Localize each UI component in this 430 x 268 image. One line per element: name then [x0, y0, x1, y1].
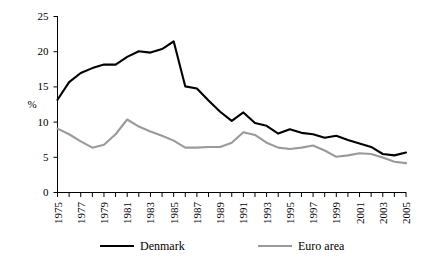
x-tick-label: 1987 [191, 202, 203, 225]
x-tick-label: 1993 [261, 202, 273, 225]
y-axis-title: % [27, 98, 36, 110]
unemployment-rate-line-chart: 0510152025 % 197519771979198119831985198… [0, 0, 430, 268]
y-axis-tick-labels: 0510152025 [38, 10, 50, 198]
x-tick-label: 1977 [75, 202, 87, 225]
x-tick-label: 1997 [307, 202, 319, 225]
x-tick-label: 1985 [168, 202, 180, 225]
x-tick-label: 1983 [144, 202, 156, 225]
x-tick-label: 1991 [237, 202, 249, 224]
x-tick-label: 2001 [354, 202, 366, 224]
x-axis-tick-labels: 1975197719791981198319851987198919911993… [52, 202, 413, 225]
y-tick-label: 5 [43, 151, 49, 163]
y-tick-label: 10 [38, 116, 50, 128]
x-tick-label: 1981 [121, 202, 133, 224]
chart-legend: DenmarkEuro area [100, 239, 345, 253]
y-axis-tick-marks [54, 17, 58, 193]
chart-plot-area: 0510152025 % 197519771979198119831985198… [0, 0, 430, 268]
x-tick-label: 2005 [400, 202, 412, 225]
legend-label-denmark: Denmark [140, 239, 185, 253]
x-tick-label: 1995 [284, 202, 296, 225]
y-tick-label: 15 [38, 80, 50, 92]
x-tick-label: 2003 [377, 202, 389, 225]
x-tick-label: 1999 [330, 202, 342, 225]
y-tick-label: 20 [38, 45, 50, 57]
y-tick-label: 25 [38, 10, 50, 22]
x-tick-label: 1979 [98, 202, 110, 225]
y-tick-label: 0 [43, 186, 49, 198]
x-tick-label: 1975 [52, 202, 64, 225]
x-tick-label: 1989 [214, 202, 226, 225]
legend-label-euro-area: Euro area [298, 239, 345, 253]
